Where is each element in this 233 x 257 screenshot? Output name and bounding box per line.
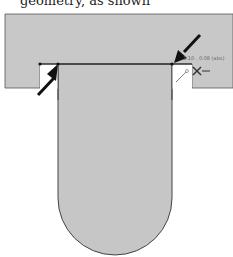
right-notch [172, 65, 192, 89]
stem-shape [58, 64, 172, 255]
geometry-diagram [0, 0, 233, 257]
dimension-label: 1.10 , 0.08 (abs) [183, 55, 224, 61]
